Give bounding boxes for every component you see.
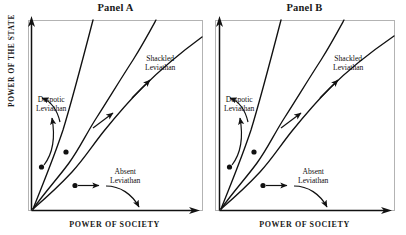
absent-label-arrow	[294, 186, 327, 207]
shackled-start-dot	[251, 149, 256, 154]
panel-a-absent-line2: Leviathan	[110, 176, 140, 185]
absent-label-arrow	[106, 186, 139, 207]
panel-a-despotic-line2: Leviathan	[36, 104, 66, 113]
panel-b-shackled-line2: Leviathan	[333, 63, 363, 72]
panel-b-despotic-label: Despotic Leviathan	[224, 96, 254, 113]
despotic-start-dot	[227, 164, 232, 169]
absent-start-dot	[260, 183, 265, 188]
panel-b-shackled-label: Shackled Leviathan	[333, 55, 363, 72]
panel-b-absent-label: Absent Leviathan	[298, 168, 328, 185]
panel-b: Panel B	[203, 0, 406, 235]
panel-a: Panel A	[0, 0, 203, 235]
panel-a-x-axis-label: POWER OF SOCIETY	[0, 220, 203, 229]
figure-container: Panel A	[0, 0, 406, 235]
panel-b-x-axis-label: POWER OF SOCIETY	[203, 220, 406, 229]
panel-a-shackled-label: Shackled Leviathan	[145, 55, 175, 72]
panel-b-despotic-line2: Leviathan	[224, 104, 254, 113]
y-axis-label: POWER OF THE STATE	[7, 0, 16, 136]
shackled-corridor-arrow-upper	[132, 80, 150, 98]
panels-row: Panel A	[0, 0, 406, 235]
panel-a-shackled-line2: Leviathan	[145, 63, 175, 72]
shackled-corridor-arrow-lower	[93, 113, 113, 128]
panel-b-absent-line2: Leviathan	[298, 176, 328, 185]
despotic-dot-arrow	[232, 118, 241, 165]
panel-a-despotic-label: Despotic Leviathan	[36, 96, 66, 113]
panel-a-plot	[0, 0, 203, 235]
panel-b-plot	[203, 0, 406, 235]
shackled-corridor-arrow-lower	[281, 113, 301, 128]
shackled-corridor-arrow-upper	[320, 80, 338, 98]
panel-a-absent-label: Absent Leviathan	[110, 168, 140, 185]
absent-start-dot	[72, 183, 77, 188]
despotic-start-dot	[39, 164, 44, 169]
shackled-start-dot	[63, 149, 68, 154]
despotic-dot-arrow	[44, 118, 53, 165]
